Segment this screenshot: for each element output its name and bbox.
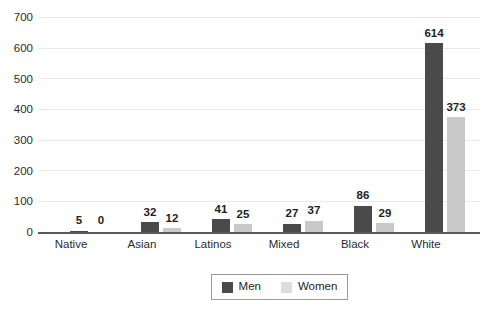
- bar-value-latinos-women: 25: [226, 209, 260, 221]
- y-tick-label-600: 600: [0, 43, 33, 55]
- y-tick-label-200: 200: [0, 166, 33, 178]
- y-tick-label-700: 700: [0, 12, 33, 24]
- legend-item-men[interactable]: Men: [222, 281, 261, 293]
- bar-black-women[interactable]: [376, 223, 394, 232]
- y-tick-label-0: 0: [0, 227, 33, 239]
- bars-container: 5 0 32 12 41 25 27 37: [38, 10, 480, 232]
- bar-native-men[interactable]: [70, 231, 88, 233]
- bar-asian-women[interactable]: [163, 228, 181, 232]
- legend-swatch-women-icon: [281, 282, 292, 293]
- bar-value-black-men: 86: [346, 190, 380, 202]
- bar-latinos-men[interactable]: [212, 219, 230, 232]
- legend-label-women: Women: [298, 281, 337, 293]
- bar-value-white-women: 373: [439, 102, 473, 114]
- legend-item-women[interactable]: Women: [281, 281, 337, 293]
- bar-value-mixed-women: 37: [297, 205, 331, 217]
- legend-label-men: Men: [239, 281, 261, 293]
- bar-value-white-men: 614: [417, 28, 451, 40]
- x-tick-label-white: White: [381, 239, 471, 251]
- legend-swatch-men-icon: [222, 282, 233, 293]
- x-axis-baseline: [38, 232, 480, 234]
- bar-mixed-men[interactable]: [283, 224, 301, 232]
- y-tick-label-400: 400: [0, 104, 33, 116]
- bar-value-black-women: 29: [368, 208, 402, 220]
- y-tick-label-300: 300: [0, 135, 33, 147]
- y-tick-label-500: 500: [0, 74, 33, 86]
- bar-white-women[interactable]: [447, 117, 465, 232]
- bar-value-asian-women: 12: [155, 213, 189, 225]
- bar-value-native-women: 0: [84, 215, 118, 227]
- bar-chart: 700 600 500 400 300 200 100 0 5 0: [0, 0, 495, 314]
- plot-area: 5 0 32 12 41 25 27 37: [38, 10, 480, 236]
- y-tick-label-100: 100: [0, 196, 33, 208]
- bar-mixed-women[interactable]: [305, 221, 323, 232]
- bar-latinos-women[interactable]: [234, 224, 252, 232]
- chart-legend: Men Women: [211, 274, 348, 300]
- bar-white-men[interactable]: [425, 43, 443, 232]
